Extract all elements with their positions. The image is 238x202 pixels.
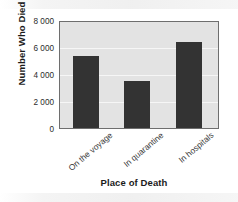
y-axis-tick-label: 6 000 [8,44,54,53]
x-axis-tick-labels: On the voyage In quarantine In hospitals [59,130,219,174]
y-axis-tick-label: 0 [8,125,54,134]
y-axis-tick-label: 8 000 [8,17,54,26]
plot-area [59,21,219,129]
x-axis-title: Place of Death [49,177,219,188]
y-axis-tick-labels: 8 000 6 000 4 000 2 000 0 [8,0,54,202]
bar-on-the-voyage [73,56,99,128]
bar-chart-figure: Number Who Died 8 000 6 000 4 000 2 000 … [0,0,238,202]
x-axis-tick-label: In hospitals [158,130,215,180]
y-axis-tick-label: 4 000 [8,71,54,80]
y-axis-tick-label: 2 000 [8,98,54,107]
bar-series [60,22,218,128]
bar-in-hospitals [176,42,202,128]
bar-in-quarantine [124,81,150,128]
